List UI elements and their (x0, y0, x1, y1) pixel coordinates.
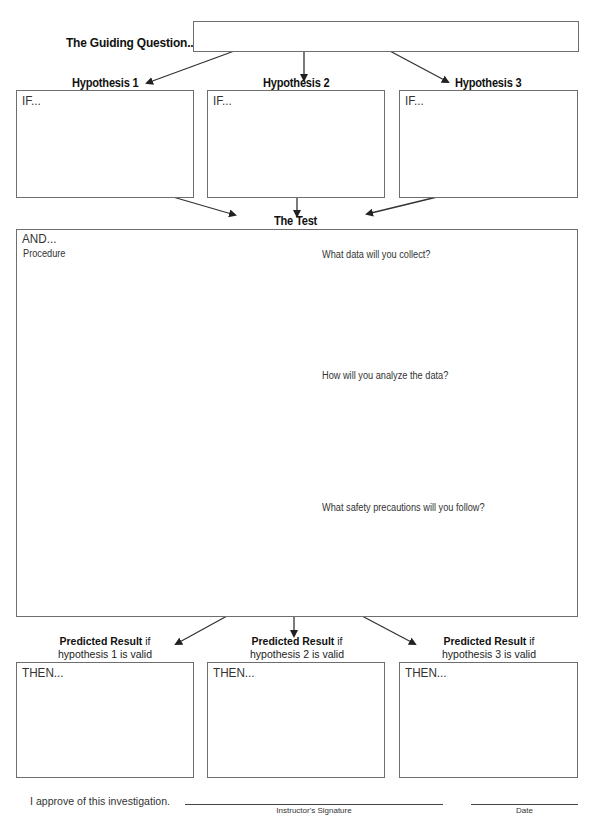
hypothesis-1-title: Hypothesis 1 (72, 76, 139, 90)
predicted-result-3-field[interactable]: THEN... (399, 662, 578, 778)
hypothesis-1-lead: IF... (22, 93, 41, 108)
predicted-result-1-field[interactable]: THEN... (16, 662, 194, 778)
signature-line[interactable] (185, 804, 443, 805)
predicted-result-2-bold: Predicted Result (251, 635, 334, 647)
data-collection-question: What data will you collect? (322, 249, 430, 260)
data-analysis-question: How will you analyze the data? (322, 370, 448, 381)
predicted-result-3-label: Predicted Result if hypothesis 3 is vali… (424, 635, 554, 661)
hypothesis-3-title: Hypothesis 3 (455, 76, 522, 90)
signature-caption: Instructor's Signature (185, 806, 443, 815)
date-line[interactable] (471, 804, 578, 805)
predicted-result-1-lead: THEN... (22, 665, 64, 680)
hypothesis-1-field[interactable]: IF... (16, 90, 194, 198)
hypothesis-2-lead: IF... (213, 93, 232, 108)
hypothesis-2-title: Hypothesis 2 (263, 76, 330, 90)
predicted-result-1-condition: hypothesis 1 is valid (58, 648, 152, 660)
predicted-result-1-bold: Predicted Result (59, 635, 142, 647)
test-title: The Test (274, 214, 317, 228)
procedure-label: Procedure (23, 248, 65, 259)
predicted-result-1-label: Predicted Result if hypothesis 1 is vali… (40, 635, 170, 661)
test-lead: AND... (22, 231, 56, 246)
predicted-result-3-bold: Predicted Result (443, 635, 526, 647)
guiding-question-field[interactable] (193, 21, 579, 52)
hypothesis-3-field[interactable]: IF... (399, 90, 578, 198)
predicted-result-2-condition: hypothesis 2 is valid (250, 648, 344, 660)
predicted-result-3-suffix: if (526, 635, 534, 647)
hypothesis-2-field[interactable]: IF... (207, 90, 385, 198)
predicted-result-2-label: Predicted Result if hypothesis 2 is vali… (232, 635, 362, 661)
hypothesis-3-lead: IF... (405, 93, 424, 108)
approval-statement: I approve of this investigation. (30, 795, 170, 807)
predicted-result-2-field[interactable]: THEN... (207, 662, 385, 778)
predicted-result-2-suffix: if (334, 635, 342, 647)
predicted-result-3-condition: hypothesis 3 is valid (442, 648, 536, 660)
test-field[interactable]: AND... Procedure What data will you coll… (16, 229, 578, 617)
predicted-result-2-lead: THEN... (213, 665, 255, 680)
predicted-result-3-lead: THEN... (405, 665, 447, 680)
guiding-question-label: The Guiding Question... (66, 35, 197, 50)
date-caption: Date (471, 806, 578, 815)
safety-question: What safety precautions will you follow? (322, 502, 485, 513)
predicted-result-1-suffix: if (142, 635, 150, 647)
